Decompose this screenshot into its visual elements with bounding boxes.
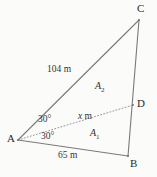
area-upper-subscript: 2: [101, 86, 105, 94]
diagram-canvas: [0, 0, 157, 177]
vertex-label-b: B: [130, 158, 137, 169]
vertex-point-d: [132, 104, 134, 106]
vertex-label-d: D: [137, 98, 145, 109]
edge-ac: [18, 20, 139, 140]
side-length-ac-label: 104 m: [47, 65, 71, 75]
side-length-ab-label: 65 m: [58, 151, 77, 161]
vertex-point-a: [17, 139, 19, 141]
vertex-point-b: [127, 155, 129, 157]
angle-label-upper: 30°: [38, 115, 51, 125]
vertex-point-c: [138, 19, 140, 21]
area-label-upper: A2: [95, 81, 105, 94]
segment-ad-length-label: x m: [78, 112, 92, 122]
vertex-label-a: A: [7, 133, 15, 144]
area-lower-subscript: 1: [96, 133, 100, 141]
geometry-diagram: A B C D 104 m 65 m x m 30° 30° A2 A1: [0, 0, 157, 177]
edge-cb: [128, 20, 139, 156]
angle-label-lower: 30°: [41, 132, 54, 142]
vertex-label-c: C: [137, 3, 144, 14]
unit-metres: m: [82, 111, 92, 121]
area-label-lower: A1: [90, 128, 100, 141]
